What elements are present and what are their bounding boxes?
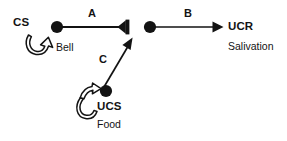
- node-cs-dot: [51, 21, 63, 33]
- label-ucs: UCS: [97, 101, 122, 113]
- label-link-a: A: [88, 8, 96, 19]
- link-c: [104, 38, 133, 87]
- label-food: Food: [97, 119, 121, 130]
- link-b-arrowhead-icon: [213, 22, 224, 33]
- link-c-line: [104, 46, 129, 88]
- node-ucs-dot: [100, 85, 112, 97]
- link-a-arrowbarb-icon: [117, 20, 125, 34]
- cs-curved-arrow-icon: [26, 35, 52, 55]
- link-a: [62, 20, 129, 35]
- link-a-arrowhead-icon: [126, 20, 130, 35]
- link-b: [155, 22, 224, 33]
- label-ucr: UCR: [228, 21, 253, 33]
- diagram-canvas: CS Bell A B C UCR Salivation UCS Food: [0, 0, 287, 141]
- label-bell: Bell: [56, 42, 74, 53]
- link-c-arrowhead-icon: [122, 38, 132, 50]
- label-link-b: B: [184, 8, 192, 19]
- node-ucr-source-dot: [144, 21, 156, 33]
- label-salivation: Salivation: [228, 41, 274, 52]
- label-link-c: C: [99, 54, 107, 65]
- label-cs: CS: [13, 17, 29, 29]
